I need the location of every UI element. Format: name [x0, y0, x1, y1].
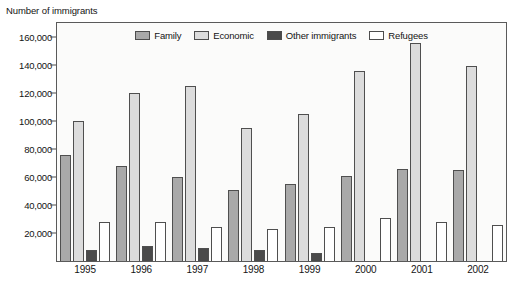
bar	[324, 227, 335, 261]
y-axis-tick-mark	[50, 65, 56, 66]
bar	[116, 166, 127, 261]
bar	[228, 190, 239, 261]
bar	[99, 222, 110, 261]
y-axis-tick-label: 20,000	[24, 228, 52, 239]
y-axis-tick-mark	[50, 121, 56, 122]
y-axis-tick-mark	[50, 205, 56, 206]
y-axis-tick-label: 160,000	[19, 32, 52, 43]
bar-group	[169, 23, 225, 261]
bar	[86, 250, 97, 261]
bar-group	[113, 23, 169, 261]
bar	[354, 71, 365, 261]
bar	[142, 246, 153, 261]
bar	[311, 253, 322, 261]
bar	[436, 222, 447, 261]
x-axis-tick-label: 1999	[282, 264, 338, 275]
bar	[211, 227, 222, 261]
bar	[73, 121, 84, 261]
bar	[172, 177, 183, 261]
y-axis-title: Number of immigrants	[6, 5, 97, 16]
x-axis-tick-label: 1998	[225, 264, 281, 275]
x-axis-tick-label: 2001	[394, 264, 450, 275]
bar	[198, 248, 209, 261]
bars-container	[57, 23, 506, 261]
x-axis-tick-label: 1997	[169, 264, 225, 275]
bar	[129, 93, 140, 261]
y-axis-tick-label: 140,000	[19, 60, 52, 71]
bar	[267, 229, 278, 261]
x-axis-tick-label: 2002	[450, 264, 506, 275]
bar-group	[394, 23, 450, 261]
bar	[453, 170, 464, 261]
bar-group	[57, 23, 113, 261]
bar	[285, 184, 296, 261]
x-axis-labels: 19951996199719981999200020012002	[57, 264, 506, 275]
bar	[341, 176, 352, 261]
y-axis-tick-label: 120,000	[19, 88, 52, 99]
y-axis-tick-label: 40,000	[24, 200, 52, 211]
bar	[185, 86, 196, 261]
bar-group	[338, 23, 394, 261]
x-axis-tick-label: 2000	[338, 264, 394, 275]
bar	[380, 218, 391, 261]
x-axis-tick-label: 1996	[113, 264, 169, 275]
bar	[492, 225, 503, 261]
immigration-bar-chart: Number of immigrants 20,00040,00060,0008…	[0, 0, 512, 293]
y-axis-tick-mark	[50, 93, 56, 94]
bar	[254, 250, 265, 261]
bar	[466, 66, 477, 261]
y-axis-tick-label: 60,000	[24, 172, 52, 183]
x-axis-tick-label: 1995	[57, 264, 113, 275]
bar	[397, 169, 408, 261]
bar	[155, 222, 166, 261]
y-axis-tick-mark	[50, 177, 56, 178]
y-axis-tick-label: 80,000	[24, 144, 52, 155]
bar	[241, 128, 252, 261]
bar	[410, 43, 421, 261]
bar	[60, 155, 71, 261]
bar	[298, 114, 309, 261]
y-axis-tick-mark	[50, 233, 56, 234]
bar-group	[450, 23, 506, 261]
y-axis-tick-mark	[50, 149, 56, 150]
bar-group	[282, 23, 338, 261]
y-axis-tick-label: 100,000	[19, 116, 52, 127]
y-axis-tick-mark	[50, 37, 56, 38]
bar-group	[225, 23, 281, 261]
